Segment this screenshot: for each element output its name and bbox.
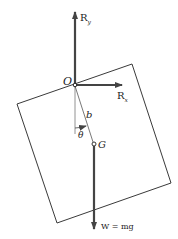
pivot-point-o: [73, 83, 77, 87]
theta-label: θ: [78, 130, 84, 140]
center-g-label: G: [98, 139, 106, 150]
weight-label: W = mg: [101, 222, 134, 231]
rx-label: Rx: [117, 90, 129, 103]
ry-label: Ry: [80, 12, 92, 26]
length-b-label: b: [86, 109, 92, 120]
center-of-mass-g: [92, 142, 96, 146]
origin-label: O: [63, 75, 72, 88]
theta-arc: [75, 126, 86, 128]
free-body-diagram: Ry Rx O b θ G W = mg: [0, 0, 178, 239]
